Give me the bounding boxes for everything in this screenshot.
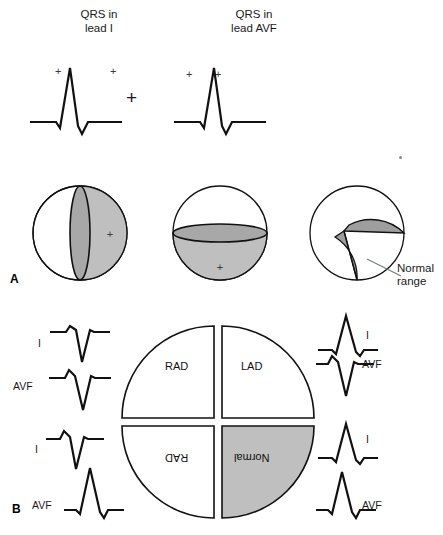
panel-b-letter: B xyxy=(12,502,21,516)
quadrant-label-lower-left: RAD xyxy=(165,452,188,463)
quadrant-label-upper-left: RAD xyxy=(165,361,188,372)
ecg-trace-left-2 xyxy=(47,360,117,416)
svg-text:+: + xyxy=(217,261,223,273)
lead-label-right-2: AVF xyxy=(362,359,382,370)
lead-label-right-4: AVF xyxy=(362,500,382,511)
lead-label-left-3: I xyxy=(35,444,38,455)
caption-qrs-lead-i: QRS in lead I xyxy=(44,8,154,35)
ecg-trace-right-4 xyxy=(314,466,380,524)
svg-text:+: + xyxy=(107,228,113,240)
lead-label-right-1: I xyxy=(366,330,369,341)
caption-qrs-lead-avf: QRS in lead AVF xyxy=(194,8,314,35)
scan-speck xyxy=(399,156,402,159)
lead-label-right-3: I xyxy=(366,434,369,445)
sphere-lead-avf: + xyxy=(163,181,288,286)
ecg-trace-left-4 xyxy=(62,462,128,524)
quadrant-shape-lower-right xyxy=(222,426,314,518)
panel-a-letter: A xyxy=(10,272,19,286)
operator-plus: + xyxy=(126,88,137,107)
quadrant-shape-upper-left xyxy=(122,326,214,418)
lead-label-left-2: AVF xyxy=(13,381,33,392)
quadrant-shape-upper-right xyxy=(222,326,314,418)
quadrant-shape-lower-left xyxy=(122,426,214,518)
ecg-complex-lead-avf xyxy=(170,60,290,140)
lead-label-left-1: I xyxy=(38,338,41,349)
normal-range-annotation: Normal range xyxy=(397,262,443,288)
figure-canvas: QRS in lead I QRS in lead AVF + + + + + … xyxy=(0,0,443,535)
sphere-lead-i: + xyxy=(28,181,143,286)
quadrant-label-lower-right: Normal xyxy=(234,452,269,463)
ecg-trace-right-3 xyxy=(316,418,382,470)
lead-label-left-4: AVF xyxy=(32,500,52,511)
quadrant-label-upper-right: LAD xyxy=(241,361,262,372)
axis-quadrant-diagram xyxy=(118,323,318,521)
